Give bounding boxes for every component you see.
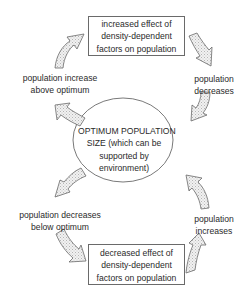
arrow-tl-to-top-box-icon: [55, 34, 84, 68]
label-br-line-1: population: [186, 213, 242, 225]
population-decreases-label: population decreases: [186, 73, 242, 97]
population-regulation-diagram: increased effect of density-dependent fa…: [0, 0, 246, 303]
arrow-bl-to-bottom-box-icon: [56, 229, 86, 262]
increased-effect-line-3: factors on population: [89, 43, 184, 55]
label-bl-line-1: population decreases: [10, 209, 110, 221]
label-tr-line-2: decreases: [186, 85, 242, 97]
increased-effect-box: increased effect of density-dependent fa…: [88, 16, 185, 56]
population-increases-label: population increases: [186, 213, 242, 237]
center-line-3: supported by: [78, 150, 170, 162]
label-tr-line-1: population: [186, 73, 242, 85]
decreased-effect-line-2: density-dependent: [89, 259, 184, 271]
population-decreases-below-optimum-label: population decreases below optimum: [10, 209, 110, 233]
arrow-br-to-center-icon: [186, 175, 209, 209]
label-br-line-2: increases: [186, 225, 242, 237]
increased-effect-line-1: increased effect of: [89, 18, 184, 30]
decreased-effect-box: decreased effect of density-dependent fa…: [88, 244, 185, 285]
center-line-1: OPTIMUM POPULATION: [78, 125, 170, 137]
arrow-bottom-box-to-br-icon: [186, 233, 206, 273]
decreased-effect-line-1: decreased effect of: [89, 247, 184, 259]
label-bl-line-2: below optimum: [10, 221, 110, 233]
increased-effect-line-2: density-dependent: [89, 30, 184, 42]
center-line-4: environment): [78, 162, 170, 174]
label-tl-line-1: population increase: [14, 72, 106, 84]
label-tl-line-2: above optimum: [14, 84, 106, 96]
arrow-top-box-to-tr-icon: [189, 33, 212, 66]
center-line-2: SIZE (which can be: [78, 137, 170, 149]
population-increase-above-optimum-label: population increase above optimum: [14, 72, 106, 96]
arrow-center-to-tl-icon: [55, 103, 85, 126]
decreased-effect-line-3: factors on population: [89, 272, 184, 284]
optimum-population-size-text: OPTIMUM POPULATION SIZE (which can be su…: [78, 125, 170, 175]
